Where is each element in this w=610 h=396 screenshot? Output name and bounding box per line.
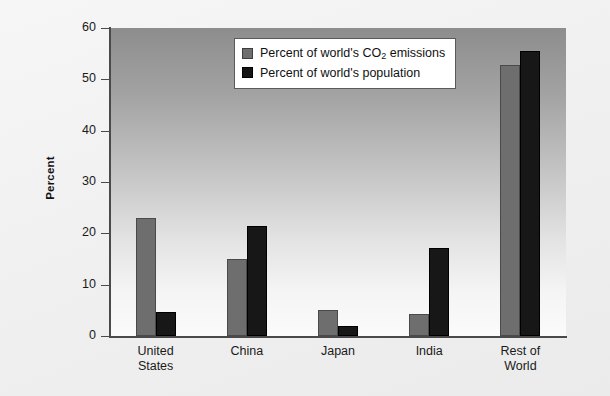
- x-axis-line: [109, 336, 567, 338]
- y-tick-mark: [101, 131, 109, 132]
- bar: [136, 218, 156, 336]
- bar: [429, 248, 449, 336]
- bar: [409, 314, 429, 336]
- legend-item-co2-emissions: Percent of world's CO2 emissions: [242, 44, 445, 63]
- legend-label-co2-emissions: Percent of world's CO2 emissions: [260, 46, 445, 61]
- chart-figure: 0102030405060 United StatesChinaJapanInd…: [0, 0, 610, 396]
- legend-item-population: Percent of world's population: [242, 63, 445, 82]
- bar: [227, 259, 247, 336]
- y-tick-mark: [101, 28, 109, 29]
- y-tick-label: 10: [60, 277, 96, 291]
- bar: [247, 226, 267, 336]
- legend-label-population: Percent of world's population: [260, 66, 420, 80]
- y-tick-mark: [101, 182, 109, 183]
- chart-legend: Percent of world's CO2 emissions Percent…: [234, 38, 456, 89]
- bar: [318, 310, 338, 336]
- y-tick-label: 50: [60, 71, 96, 85]
- x-tick-label: Japan: [293, 344, 383, 359]
- legend-swatch-population: [242, 67, 253, 78]
- y-tick-mark: [101, 285, 109, 286]
- y-axis-line: [109, 27, 111, 337]
- y-tick-mark: [101, 233, 109, 234]
- y-tick-mark: [101, 79, 109, 80]
- bar: [520, 51, 540, 336]
- y-tick-label: 30: [60, 174, 96, 188]
- y-tick-label: 60: [60, 20, 96, 34]
- bar: [338, 326, 358, 336]
- legend-swatch-co2-emissions: [242, 48, 253, 59]
- x-tick-label: India: [384, 344, 474, 359]
- bar: [156, 312, 176, 336]
- x-tick-label: United States: [111, 344, 201, 374]
- x-tick-label: Rest of World: [475, 344, 565, 374]
- y-tick-mark: [101, 336, 109, 337]
- y-axis-title: Percent: [44, 123, 56, 233]
- bar: [500, 65, 520, 336]
- y-tick-label: 20: [60, 225, 96, 239]
- y-tick-label: 0: [60, 328, 96, 342]
- y-tick-label: 40: [60, 123, 96, 137]
- x-tick-label: China: [202, 344, 292, 359]
